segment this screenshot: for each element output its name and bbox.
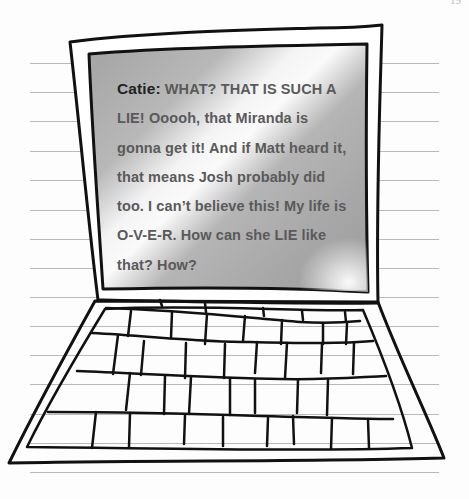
laptop-base (9, 301, 444, 463)
message-line: LIE! Ooooh, that Miranda is (117, 107, 367, 136)
chat-message: Catie: WHAT? THAT IS SUCH A LIE! Ooooh, … (117, 78, 367, 283)
message-line: Catie: WHAT? THAT IS SUCH A (117, 78, 367, 107)
speaker-name: Catie: (117, 80, 161, 97)
message-line: that? How? (117, 254, 367, 283)
message-line: too. I can’t believe this! My life is (117, 195, 367, 224)
keyboard-keys (48, 300, 393, 449)
message-line: gonna get it! And if Matt heard it, (117, 137, 367, 166)
message-line: O-V-E-R. How can she LIE like (117, 224, 367, 253)
notebook-page: 19 (0, 0, 469, 499)
message-line: that means Josh probably did (117, 166, 367, 195)
